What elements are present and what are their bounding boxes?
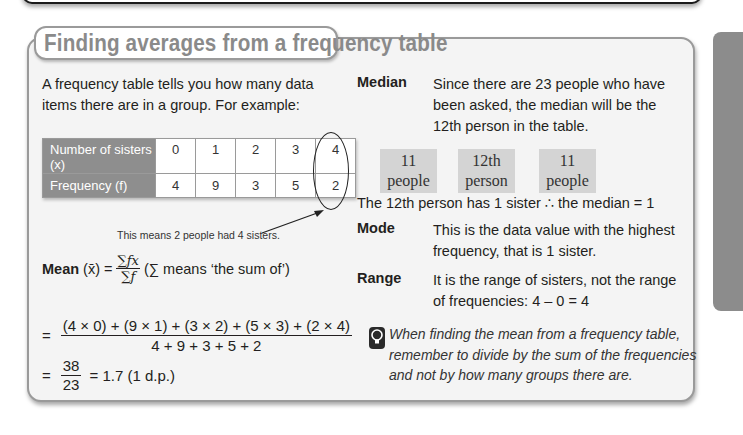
table-cell: 1	[196, 139, 236, 174]
calc-fraction: (4 × 0) + (9 × 1) + (3 × 2) + (5 × 3) + …	[61, 316, 352, 355]
box-line: people	[380, 171, 437, 191]
mean-label: Mean	[42, 261, 79, 277]
mode-text: This is the data value with the highest …	[433, 220, 683, 262]
row-header-x: Number of sisters (x)	[43, 139, 156, 174]
table-cell: 0	[156, 139, 196, 174]
result-value: = 1.7 (1 d.p.)	[89, 367, 174, 384]
side-chapter-tab	[713, 32, 743, 311]
table-cell: 2	[236, 139, 276, 174]
previous-section-box	[22, 0, 702, 4]
fraction-numerator: 38	[61, 357, 82, 376]
box-line: 11	[539, 151, 596, 171]
result-fraction: 38 23	[61, 357, 82, 394]
median-box: 12th person	[458, 149, 515, 193]
section-title: Finding averages from a frequency table	[44, 29, 448, 57]
median-text: Since there are 23 people who have been …	[433, 74, 683, 137]
mean-formula: Mean (x̄) = ∑fx ∑f (∑ means ‘the sum of’…	[42, 253, 290, 284]
mode-label: Mode	[357, 220, 395, 236]
table-cell: 9	[196, 174, 236, 198]
median-box: 11 people	[539, 149, 596, 193]
frequency-table: Number of sisters (x) 0 1 2 3 4 Frequenc…	[42, 138, 356, 198]
range-label: Range	[357, 270, 401, 286]
table-cell: 5	[276, 174, 316, 198]
range-text: It is the range of sisters, not the rang…	[433, 270, 683, 312]
section-title-tab: Finding averages from a frequency table	[34, 26, 338, 60]
mean-fraction: ∑fx ∑f	[116, 253, 139, 284]
table-cell: 3	[276, 139, 316, 174]
box-line: person	[458, 171, 515, 191]
equals-sign: =	[42, 367, 51, 384]
highlight-ellipse	[313, 132, 349, 210]
median-conclusion: The 12th person has 1 sister ∴ the media…	[357, 195, 654, 211]
sum-note: (∑ means ‘the sum of’)	[144, 261, 290, 277]
fraction-denominator: ∑f	[121, 269, 135, 284]
intro-text: A frequency table tells you how many dat…	[42, 74, 352, 116]
fraction-numerator: ∑fx	[116, 253, 139, 269]
median-box: 11 people	[380, 149, 437, 193]
mean-symbol: (x̄) =	[83, 261, 112, 277]
mean-result: = 38 23 = 1.7 (1 d.p.)	[42, 357, 175, 394]
fraction-denominator: 4 + 9 + 3 + 5 + 2	[151, 336, 261, 355]
table-cell: 4	[156, 174, 196, 198]
table-cell: 3	[236, 174, 276, 198]
box-line: 11	[380, 151, 437, 171]
median-label: Median	[357, 74, 407, 90]
fraction-numerator: (4 × 0) + (9 × 1) + (3 × 2) + (5 × 3) + …	[61, 316, 352, 336]
fraction-denominator: 23	[63, 376, 80, 394]
equals-sign: =	[42, 327, 51, 344]
table-annotation: This means 2 people had 4 sisters.	[117, 229, 280, 241]
row-header-f: Frequency (f)	[43, 174, 156, 198]
table-row: Number of sisters (x) 0 1 2 3 4	[43, 139, 356, 174]
tip-text: When finding the mean from a frequency t…	[389, 324, 699, 386]
box-line: people	[539, 171, 596, 191]
mean-calculation: = (4 × 0) + (9 × 1) + (3 × 2) + (5 × 3) …	[42, 316, 352, 355]
lightbulb-icon	[369, 327, 385, 349]
table-row: Frequency (f) 4 9 3 5 2	[43, 174, 356, 198]
box-line: 12th	[458, 151, 515, 171]
